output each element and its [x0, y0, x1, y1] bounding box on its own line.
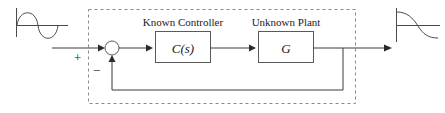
plus-sign: + — [74, 50, 81, 65]
plant-caption: Unknown Plant — [252, 16, 321, 28]
minus-sign: − — [93, 63, 100, 78]
output-decaying-exponential-icon — [397, 8, 441, 42]
plant-block-label: G — [281, 41, 291, 56]
controller-block-label: C(s) — [172, 41, 194, 56]
feedback-arrowhead — [109, 55, 116, 62]
summing-junction-circle — [105, 41, 119, 55]
controller-input-arrowhead — [146, 45, 153, 52]
output-wire — [313, 45, 392, 52]
error-wire — [119, 45, 153, 52]
plant-input-arrowhead — [249, 45, 256, 52]
controller-block[interactable]: C(s) — [156, 32, 211, 63]
output-arrowhead — [384, 45, 392, 52]
controller-caption: Known Controller — [143, 16, 224, 28]
figure-canvas: + − C(s) Known Controller G Unknown Plan… — [0, 0, 445, 113]
input-sine-wave-icon — [17, 8, 69, 38]
input-arrowhead — [98, 45, 105, 52]
plant-block[interactable]: G — [259, 32, 314, 63]
block-diagram-svg: + − C(s) Known Controller G Unknown Plan… — [0, 0, 445, 113]
controller-to-plant-wire — [210, 45, 256, 52]
